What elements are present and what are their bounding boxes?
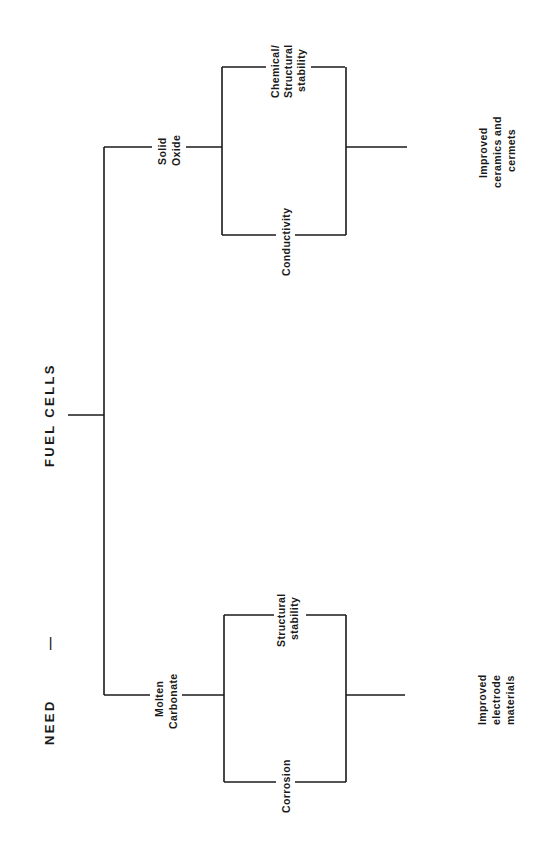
outcome-text-line: ceramics and (491, 116, 503, 188)
need-heading: NEED (42, 699, 57, 745)
outcome-text-line: materials (504, 675, 516, 725)
outcome-text-line: Improved (476, 675, 488, 725)
issue-text-line: stability (295, 49, 307, 92)
issue-corrosion: Corrosion (280, 759, 292, 813)
fuel-cells-tree-diagram: NEED — FUEL CELLS Solid Oxide Chemical/ … (0, 0, 544, 857)
molten-carbonate-label-line1: Molten (153, 681, 165, 717)
outcome-text-line: cermets (505, 129, 517, 172)
fuel-cells-heading: FUEL CELLS (42, 363, 57, 467)
solid-oxide-label-line2: Oxide (170, 135, 182, 166)
molten-carbonate-label-line2: Carbonate (167, 673, 179, 729)
issue-structural-stability: Structural stability (275, 593, 300, 647)
issue-chemical-structural-stability: Chemical/ Structural stability (269, 44, 307, 98)
outcome-improved-electrode-materials: Improved electrode materials (476, 675, 516, 725)
outcome-text-line: electrode (490, 675, 502, 725)
outcome-text-line: Improved (477, 128, 489, 178)
molten-carbonate-label: Molten Carbonate (153, 673, 179, 729)
issue-text-line: Structural (282, 44, 294, 98)
solid-oxide-label: Solid Oxide (156, 135, 182, 166)
heading-dash: — (42, 637, 57, 650)
outcome-improved-ceramics: Improved ceramics and cermets (477, 116, 517, 188)
solid-oxide-label-line1: Solid (156, 137, 168, 165)
issue-text-line: stability (288, 597, 300, 640)
issue-conductivity: Conductivity (280, 208, 292, 276)
issue-text-line: Structural (275, 593, 287, 647)
issue-text-line: Chemical/ (269, 45, 281, 98)
